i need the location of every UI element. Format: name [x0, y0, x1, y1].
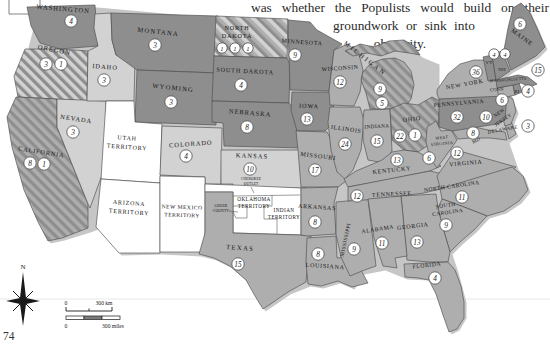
votes-number-montana-1: 3	[152, 41, 157, 50]
votes-number-connecticut-1: 6	[500, 96, 504, 105]
label-vermont: VT	[486, 60, 493, 65]
votes-number-north-carolina-1: 11	[459, 193, 466, 202]
votes-number-indiana-1: 15	[373, 137, 381, 146]
votes-number-north-dakota-2: 1	[233, 45, 236, 52]
label-new-mexico-2: TERRITORY	[164, 211, 200, 218]
votes-number-north-dakota-1: 1	[220, 45, 223, 52]
votes-number-tennessee-1: 12	[353, 192, 361, 201]
label-cherokee-outlet-1: CHEROKEE	[241, 177, 262, 181]
votes-number-new-york-1: 36	[471, 68, 480, 77]
label-greer-county-2: COUNTY	[213, 209, 230, 213]
votes-number-illinois-1: 24	[341, 140, 349, 149]
votes-number-ohio-2: 1	[413, 131, 417, 140]
label-oklahoma-1: OKLAHOMA	[237, 196, 270, 202]
label-cherokee-outlet-2: OUTLET	[244, 182, 259, 186]
votes-number-delaware-1: 3	[525, 122, 530, 131]
votes-number-rhode-island-1: 4	[526, 87, 530, 96]
votes-number-alabama-1: 11	[379, 239, 386, 248]
compass-rose: N	[6, 263, 40, 326]
votes-number-south-dakota-1: 4	[239, 81, 243, 90]
label-north-dakota-2: DAKOTA	[222, 32, 252, 39]
votes-number-maryland-1: 8	[471, 129, 475, 138]
votes-number-arkansas-1: 8	[313, 218, 317, 227]
votes-number-new-jersey-1: 10	[482, 113, 490, 122]
state-arkansas	[301, 187, 338, 236]
votes-number-wyoming-1: 3	[168, 98, 173, 107]
us-1892-election-map: WASHINGTONOREGONCALIFORNIANEVADAIDAHOMON…	[0, 0, 550, 348]
votes-number-ohio-1: 22	[396, 132, 404, 141]
scale-miles-start: 0	[65, 323, 68, 329]
votes-number-idaho-1: 3	[101, 76, 106, 85]
votes-number-mississippi-1: 9	[352, 245, 356, 254]
label-greer-county-1: GREER	[215, 204, 228, 208]
votes-number-california-1: 8	[28, 159, 32, 168]
votes-number-oregon-1: 3	[43, 60, 48, 69]
votes-number-virginia-1: 12	[453, 149, 461, 158]
scale-km-end: 300 km	[96, 300, 114, 306]
votes-number-florida-1: 4	[433, 274, 437, 283]
state-wyoming	[135, 70, 217, 125]
votes-number-georgia-1: 13	[413, 238, 421, 247]
votes-number-pennsylvania-1: 32	[452, 113, 461, 122]
state-iowa	[291, 92, 334, 131]
votes-number-nevada-1: 3	[70, 128, 75, 137]
votes-number-california-2: 1	[42, 160, 46, 169]
state-oregon	[14, 49, 88, 101]
label-indian-territory-2: TERRITORY	[268, 214, 300, 220]
scale-miles-end: 300 miles	[102, 323, 124, 329]
scale-km-start: 0	[65, 300, 68, 306]
votes-number-maine-1: 6	[518, 20, 522, 29]
votes-number-kansas-1: 10	[246, 165, 254, 174]
votes-number-louisiana-1: 8	[316, 250, 320, 259]
label-iowa: IOWA	[299, 102, 319, 110]
votes-number-washington-1: 4	[69, 17, 73, 26]
state-south-dakota	[212, 56, 290, 103]
votes-number-minnesota-1: 9	[293, 51, 297, 60]
label-north-dakota-1: NORTH	[225, 24, 250, 31]
votes-number-michigan-2: 5	[380, 99, 384, 108]
votes-number-massachusetts-1: 15	[534, 66, 542, 75]
label-oklahoma-2: TERRITORY	[238, 203, 270, 209]
votes-number-oregon-2: 1	[59, 60, 63, 69]
votes-number-colorado-1: 4	[184, 152, 188, 161]
label-connecticut: CONN	[490, 86, 505, 92]
label-new-hampshire: NH	[498, 67, 506, 72]
votes-number-kentucky-1: 13	[393, 156, 401, 165]
territory-arizona	[96, 179, 160, 253]
votes-number-michigan-1: 9	[378, 85, 382, 94]
label-rhode-island: RI	[515, 89, 520, 94]
votes-number-nebraska-1: 8	[245, 123, 249, 132]
label-indian-territory-1: INDIAN	[274, 207, 295, 213]
state-nebraska	[212, 101, 302, 148]
votes-number-missouri-1: 17	[311, 166, 319, 175]
book-page: was whether the Populists would build on…	[0, 0, 550, 348]
votes-number-wisconsin-1: 12	[336, 78, 344, 87]
scale-bar: 0 300 km 0 300 miles	[65, 300, 124, 329]
votes-number-iowa-1: 13	[303, 115, 311, 124]
compass-north-label: N	[20, 263, 25, 271]
votes-number-south-carolina-1: 9	[444, 221, 448, 230]
votes-number-west-virginia-1: 6	[427, 154, 431, 163]
votes-number-texas-1: 15	[234, 260, 242, 269]
votes-number-north-dakota-3: 1	[246, 45, 249, 52]
